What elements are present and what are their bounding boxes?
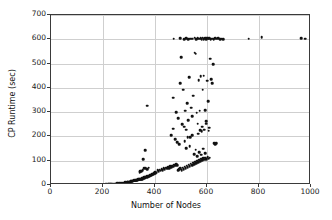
y-axis-tick-label: 700 — [32, 10, 46, 18]
data-point — [204, 109, 207, 112]
data-point — [179, 82, 182, 85]
gridline-horizontal — [51, 112, 309, 113]
data-point — [185, 147, 188, 150]
data-point — [191, 115, 194, 118]
data-point — [172, 96, 175, 99]
data-point — [185, 128, 188, 131]
y-axis-tick — [47, 135, 50, 136]
data-point — [196, 123, 199, 126]
data-point — [203, 74, 206, 77]
data-point — [187, 119, 190, 122]
data-point — [172, 127, 175, 130]
data-point — [206, 79, 209, 82]
plot-area — [50, 14, 310, 184]
data-point — [184, 109, 187, 112]
data-point — [170, 134, 173, 137]
gridline-vertical — [259, 15, 260, 183]
data-point — [200, 154, 203, 157]
data-point — [202, 147, 205, 150]
data-point — [194, 53, 197, 56]
data-point — [172, 37, 175, 40]
data-point — [107, 183, 110, 184]
data-point — [197, 79, 200, 82]
data-point — [304, 38, 307, 41]
data-point — [175, 111, 178, 114]
data-point — [193, 153, 196, 156]
data-point — [209, 57, 212, 60]
data-point — [205, 123, 208, 126]
data-point — [188, 76, 191, 79]
data-point — [186, 102, 189, 105]
x-axis-tick-label: 0 — [48, 188, 53, 196]
data-point — [192, 94, 195, 97]
x-axis-label: Number of Nodes — [0, 201, 332, 210]
data-point — [144, 149, 147, 152]
data-point — [178, 143, 181, 146]
y-axis-tick — [47, 63, 50, 64]
data-point — [179, 37, 182, 40]
data-point — [212, 63, 215, 66]
x-axis-tick-label: 1000 — [300, 188, 319, 196]
data-point — [222, 38, 225, 41]
y-axis-tick — [47, 160, 50, 161]
y-axis-tick — [47, 87, 50, 88]
y-axis-tick — [47, 14, 50, 15]
x-axis-tick-label: 800 — [251, 188, 265, 196]
gridline-horizontal — [51, 88, 309, 89]
y-axis-tick-label: 200 — [32, 132, 46, 140]
data-point — [195, 111, 198, 114]
data-point — [104, 183, 107, 184]
gridline-vertical — [155, 15, 156, 183]
data-point — [196, 155, 199, 158]
y-axis-tick — [47, 38, 50, 39]
data-point — [183, 140, 186, 143]
x-axis-tick-label: 600 — [199, 188, 213, 196]
data-point — [194, 148, 197, 151]
data-point — [177, 117, 180, 120]
y-axis-tick-label: 0 — [41, 180, 46, 188]
y-axis-tick-label: 400 — [32, 83, 46, 91]
gridline-horizontal — [51, 161, 309, 162]
data-point — [199, 129, 202, 132]
data-point — [204, 152, 207, 155]
data-point — [198, 109, 201, 112]
data-point — [207, 129, 210, 132]
gridline-horizontal — [51, 136, 309, 137]
gridline-horizontal — [51, 15, 309, 16]
data-point — [300, 37, 303, 40]
data-point — [147, 166, 150, 169]
data-point — [191, 134, 194, 137]
x-axis-tick-label: 400 — [147, 188, 161, 196]
y-axis-tick-label: 100 — [32, 156, 46, 164]
data-point — [176, 164, 179, 167]
y-axis-tick — [47, 111, 50, 112]
data-point — [140, 170, 143, 173]
data-point — [180, 56, 183, 59]
data-point — [186, 136, 189, 139]
data-point — [211, 82, 214, 85]
gridline-vertical — [103, 15, 104, 183]
y-axis-tick-label: 600 — [32, 35, 46, 43]
data-point — [190, 106, 193, 109]
data-point — [197, 132, 200, 135]
gridline-horizontal — [51, 64, 309, 65]
data-point — [182, 89, 185, 92]
data-point — [203, 128, 206, 131]
data-point — [202, 89, 205, 92]
data-point — [208, 157, 211, 160]
data-point — [260, 36, 263, 39]
y-axis-label: CP Runtime (sec) — [8, 49, 17, 159]
data-point — [189, 145, 192, 148]
data-point — [247, 37, 250, 40]
data-point — [215, 142, 218, 145]
scatter-chart-figure: 010020030040050060070002004006008001000 … — [0, 0, 332, 220]
y-axis-tick-label: 300 — [32, 107, 46, 115]
data-point — [142, 158, 145, 161]
data-point — [210, 78, 213, 81]
y-axis-tick-label: 500 — [32, 59, 46, 67]
data-point — [146, 104, 149, 107]
x-axis-tick-label: 200 — [95, 188, 109, 196]
data-point — [207, 100, 210, 103]
